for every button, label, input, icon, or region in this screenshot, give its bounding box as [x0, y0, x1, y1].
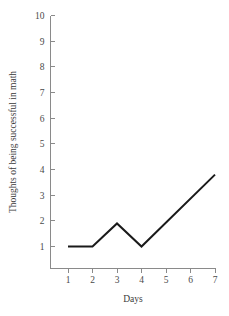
- x-axis: 1234567: [51, 269, 218, 285]
- y-tick-label: 3: [40, 191, 45, 201]
- y-tick-label: 4: [40, 165, 45, 175]
- x-tick-label: 3: [115, 275, 120, 285]
- y-tick-label: 10: [35, 11, 45, 21]
- y-tick-label: 7: [40, 88, 45, 98]
- y-tick-label: 5: [40, 139, 45, 149]
- line-chart: 12345678910 1234567 Thoughts of being su…: [0, 0, 229, 316]
- y-tick-label: 1: [40, 242, 45, 252]
- y-tick-label: 6: [40, 114, 45, 124]
- x-tick-label: 7: [213, 275, 218, 285]
- chart-canvas: 12345678910 1234567 Thoughts of being su…: [0, 0, 229, 316]
- x-axis-title: Days: [123, 294, 143, 304]
- data-series-line: [68, 175, 215, 247]
- y-tick-label: 2: [40, 216, 45, 226]
- x-tick-label: 5: [164, 275, 169, 285]
- y-axis: 12345678910: [35, 11, 55, 269]
- y-axis-title: Thoughts of being successful in math: [8, 71, 18, 213]
- x-tick-label: 2: [90, 275, 95, 285]
- x-tick-label: 1: [66, 275, 71, 285]
- x-tick-label: 4: [139, 275, 144, 285]
- x-tick-label: 6: [188, 275, 193, 285]
- y-tick-label: 8: [40, 62, 45, 72]
- y-tick-label: 9: [40, 37, 45, 47]
